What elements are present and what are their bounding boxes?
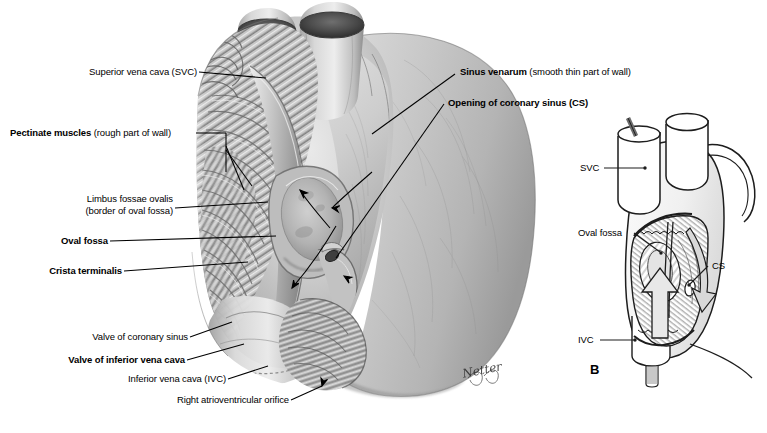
anatomical-figure: Superior vena cava (SVC) Pectinate muscl… <box>0 0 767 433</box>
orientation-inset-illustration <box>0 0 767 433</box>
artist-signature: Netter <box>461 359 503 380</box>
label-pectinate-muscles: Pectinate muscles (rough part of wall) <box>10 127 171 139</box>
label-oval-fossa: Oval fossa <box>0 235 108 247</box>
label-right-atrioventricular-orifice: Right atrioventricular orifice <box>0 394 289 406</box>
label-superior-vena-cava: Superior vena cava (SVC) <box>0 66 197 78</box>
label-valve-of-inferior-vena-cava: Valve of inferior vena cava <box>0 354 185 366</box>
inset-label-svc: SVC <box>580 162 599 174</box>
label-valve-of-coronary-sinus: Valve of coronary sinus <box>0 331 188 343</box>
right-atrium-illustration <box>0 0 767 433</box>
label-inferior-vena-cava: Inferior vena cava (IVC) <box>0 373 226 385</box>
inset-label-oval-fossa: Oval fossa <box>578 227 622 239</box>
panel-identifier-b: B <box>590 362 599 377</box>
inset-label-cs: CS <box>712 260 725 272</box>
label-limbus-fossae-ovalis: Limbus fossae ovalis (border of oval fos… <box>0 193 173 216</box>
label-opening-of-coronary-sinus: Opening of coronary sinus (CS) <box>448 97 588 109</box>
inset-label-ivc: IVC <box>578 334 594 346</box>
label-crista-terminalis: Crista terminalis <box>0 265 122 277</box>
label-sinus-venarum: Sinus venarum (smooth thin part of wall) <box>460 66 631 78</box>
